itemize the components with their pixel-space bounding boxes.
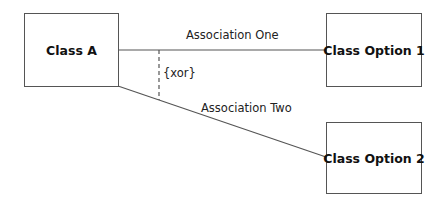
association-two-label: Association Two — [201, 101, 292, 115]
class-option-1-name: Class Option 1 — [323, 43, 425, 58]
class-option-1-box[interactable]: Class Option 1 — [326, 13, 422, 87]
class-option-2-box[interactable]: Class Option 2 — [326, 122, 422, 194]
xor-constraint-label: {xor} — [163, 66, 196, 80]
association-two-line[interactable] — [118, 86, 326, 157]
class-a-box[interactable]: Class A — [24, 13, 119, 87]
association-one-label: Association One — [186, 28, 279, 42]
class-a-name: Class A — [46, 43, 97, 58]
class-option-2-name: Class Option 2 — [323, 151, 425, 166]
